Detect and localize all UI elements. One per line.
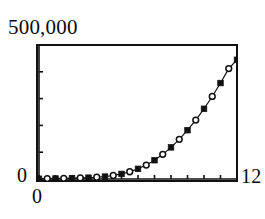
x-axis-max-label: 12 bbox=[241, 166, 261, 186]
y-axis-min-label: 0 bbox=[17, 165, 27, 185]
data-markers bbox=[36, 57, 238, 182]
y-axis-max-label: 500,000 bbox=[8, 17, 78, 38]
plot-area bbox=[36, 44, 238, 182]
chart-figure: 500,000 0 0 12 bbox=[0, 0, 265, 219]
y-axis-ticks bbox=[39, 45, 43, 179]
data-line bbox=[39, 60, 237, 179]
x-axis-min-label: 0 bbox=[32, 186, 42, 206]
